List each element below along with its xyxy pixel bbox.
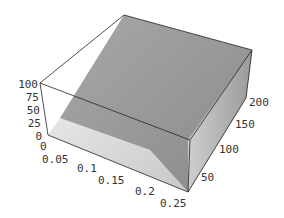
- svg-text:0.25: 0.25: [160, 197, 187, 210]
- svg-text:0.15: 0.15: [98, 174, 125, 187]
- svg-text:100: 100: [18, 78, 38, 91]
- svg-text:25: 25: [28, 117, 41, 130]
- surface-plot: 100 75 50 25 0 0 0.05 0.1 0.15 0.2 0.25 …: [0, 0, 284, 218]
- z-axis-ticks: 100 75 50 25 0: [18, 78, 42, 143]
- svg-text:50: 50: [201, 171, 214, 184]
- svg-text:0.2: 0.2: [135, 185, 155, 198]
- svg-text:200: 200: [249, 96, 269, 109]
- svg-text:0.1: 0.1: [77, 162, 97, 175]
- svg-text:75: 75: [26, 91, 39, 104]
- svg-text:100: 100: [219, 143, 239, 156]
- svg-text:0.05: 0.05: [42, 153, 69, 166]
- svg-text:0: 0: [40, 140, 47, 153]
- svg-text:50: 50: [27, 104, 40, 117]
- svg-text:150: 150: [235, 118, 255, 131]
